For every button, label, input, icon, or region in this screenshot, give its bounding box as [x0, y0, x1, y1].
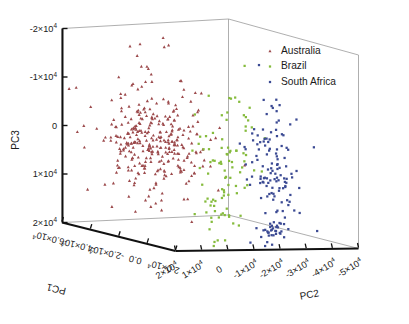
data-point [104, 136, 107, 139]
data-point [144, 110, 147, 113]
legend-label-brazil: Brazil [281, 60, 306, 71]
data-point [214, 200, 216, 202]
data-point [124, 93, 127, 96]
data-point [286, 199, 288, 201]
data-point [274, 173, 276, 175]
data-point [278, 119, 280, 121]
data-point [228, 160, 230, 162]
data-point [130, 169, 133, 172]
data-point [245, 116, 247, 118]
data-point [155, 102, 158, 105]
data-point [289, 194, 291, 196]
data-point [295, 170, 297, 172]
data-point [249, 241, 251, 243]
data-point [128, 45, 131, 48]
data-point [269, 223, 271, 225]
data-point [161, 192, 164, 195]
data-point [238, 101, 240, 103]
data-point [182, 168, 185, 171]
tick-label-pc2: -1×104 [230, 256, 260, 280]
data-point [274, 230, 276, 232]
data-point [239, 142, 241, 144]
data-point [241, 166, 243, 168]
data-point [223, 191, 225, 193]
data-point [109, 139, 112, 142]
data-point [145, 139, 148, 142]
data-point [298, 187, 300, 189]
data-point [138, 162, 141, 165]
data-point [263, 99, 265, 101]
data-point [243, 146, 245, 148]
data-point [255, 227, 257, 229]
data-point [226, 208, 228, 210]
data-point [242, 152, 244, 154]
data-point [284, 185, 286, 187]
data-point [276, 148, 278, 150]
data-point [264, 212, 266, 214]
data-point [154, 172, 157, 175]
data-point [200, 92, 203, 95]
data-point [245, 154, 247, 156]
data-point [86, 188, 89, 191]
legend-marker-brazil [269, 65, 271, 67]
data-point [276, 225, 278, 227]
data-point [266, 153, 268, 155]
data-point [162, 139, 165, 142]
data-point [162, 36, 165, 39]
data-point [286, 178, 288, 180]
data-point [143, 171, 146, 174]
data-point [150, 97, 153, 100]
data-point [244, 187, 246, 189]
data-point [119, 92, 122, 95]
data-point [269, 179, 271, 181]
data-point [267, 182, 269, 184]
data-point [186, 198, 189, 201]
data-point [208, 148, 210, 150]
data-point [280, 174, 282, 176]
data-point [187, 137, 190, 140]
data-point [232, 222, 234, 224]
data-point [273, 195, 275, 197]
data-point [120, 106, 123, 109]
data-point [288, 201, 290, 203]
data-point [231, 161, 233, 163]
data-point [167, 138, 170, 141]
data-point [199, 150, 202, 153]
data-point [287, 149, 289, 151]
data-point [239, 171, 241, 173]
data-point [313, 146, 315, 148]
data-point [127, 165, 130, 168]
data-point [173, 152, 176, 155]
data-point [76, 130, 79, 133]
data-point [243, 114, 245, 116]
data-point [146, 99, 149, 102]
data-point [150, 115, 153, 118]
data-point [251, 126, 253, 128]
data-point [148, 107, 151, 110]
data-point [220, 163, 222, 165]
data-point [201, 165, 204, 168]
tick-label-pc2: -4×104 [309, 255, 339, 279]
data-point [149, 205, 152, 208]
data-point [209, 138, 212, 141]
data-point [102, 139, 105, 142]
data-point [120, 109, 123, 112]
data-point [227, 184, 229, 186]
data-point [283, 236, 285, 238]
data-point [136, 137, 139, 140]
data-point [259, 178, 261, 180]
data-point [225, 119, 227, 121]
data-point [189, 130, 192, 133]
data-point [144, 80, 147, 83]
data-point [212, 159, 214, 161]
data-point [187, 180, 190, 183]
data-point [208, 95, 210, 97]
data-point [116, 159, 119, 162]
data-point [205, 211, 207, 213]
data-point [144, 199, 147, 202]
data-point [283, 157, 285, 159]
data-point [189, 100, 192, 103]
data-point [173, 148, 176, 151]
data-point [251, 132, 253, 134]
data-point [182, 88, 185, 91]
